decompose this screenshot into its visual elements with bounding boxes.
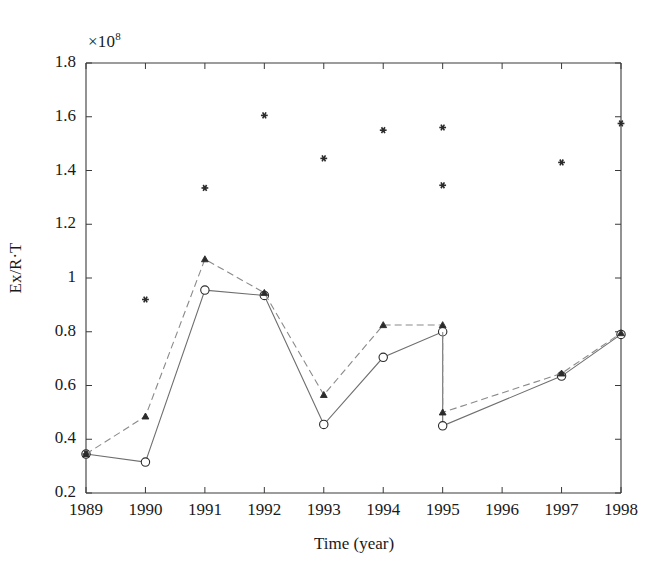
data-point-solid-open-circle-1990[interactable]	[141, 458, 149, 466]
data-point-solid-open-circle-1995[interactable]	[438, 422, 446, 430]
data-point-solid-open-circle-1991[interactable]	[201, 286, 209, 294]
data-point-solid-open-circle-1993[interactable]	[320, 420, 328, 428]
data-point-dashed-filled-marker-1993[interactable]	[320, 392, 327, 398]
data-point-scatter-asterisk-1991[interactable]	[203, 186, 206, 189]
data-point-scatter-asterisk-1997[interactable]	[560, 161, 563, 164]
data-point-scatter-asterisk-1990[interactable]	[144, 298, 147, 301]
series-line-dashed-filled-marker	[86, 259, 621, 454]
data-point-dashed-filled-marker-1991[interactable]	[201, 256, 208, 262]
data-point-solid-open-circle-1994[interactable]	[379, 353, 387, 361]
data-point-scatter-asterisk-1993[interactable]	[322, 157, 325, 160]
data-point-scatter-asterisk-1995[interactable]	[441, 126, 444, 129]
data-point-scatter-asterisk-1998[interactable]	[620, 122, 623, 125]
data-point-scatter-asterisk-1995[interactable]	[441, 184, 444, 187]
data-point-scatter-asterisk-1989[interactable]	[85, 453, 88, 456]
plot-canvas	[0, 0, 666, 572]
data-point-scatter-asterisk-1992[interactable]	[263, 114, 266, 117]
data-point-scatter-asterisk-1994[interactable]	[382, 129, 385, 132]
data-point-dashed-filled-marker-1990[interactable]	[142, 413, 149, 419]
chart-figure: ×108 Ex/R·T Time (year) 0.20.40.60.811.2…	[0, 0, 666, 572]
series-line-solid-open-circle	[86, 290, 621, 462]
